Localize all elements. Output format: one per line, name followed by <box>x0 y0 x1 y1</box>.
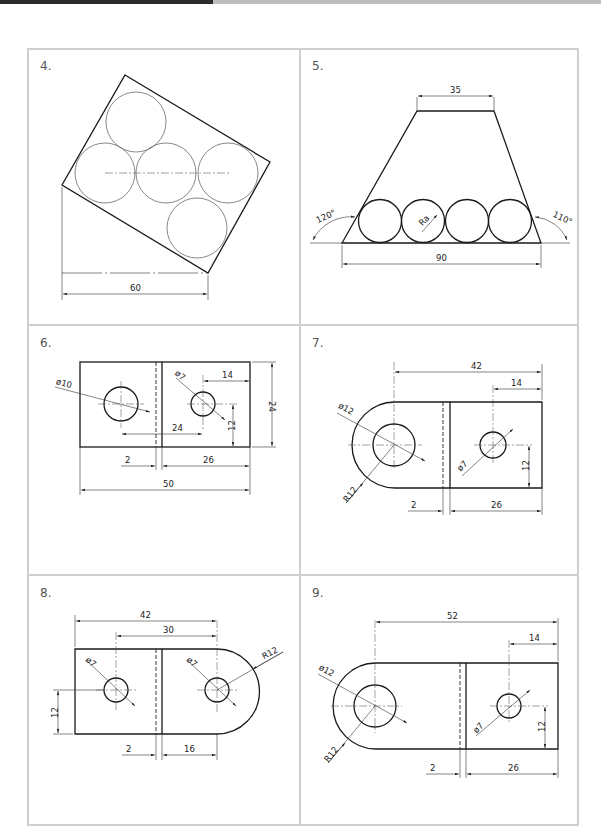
dim-d7a: ø7 <box>84 655 99 670</box>
dim-2: 2 <box>411 500 416 510</box>
dim-12: 12 <box>521 460 531 471</box>
dim-14: 14 <box>222 370 233 380</box>
dim-12: 12 <box>227 420 237 431</box>
panel-7: 7. ø12 R12 ø7 42 14 12 2 26 <box>312 336 542 515</box>
dim-r12: R12 <box>322 745 340 764</box>
dim-d7: ø7 <box>173 368 188 382</box>
panel-label: 9. <box>312 586 323 600</box>
dim-120: 120° <box>314 207 337 225</box>
dim-r12: R12 <box>341 485 359 504</box>
dim-2: 2 <box>125 455 130 465</box>
dim-d12: ø12 <box>317 662 336 678</box>
grid-frame <box>28 49 578 825</box>
dim-16: 16 <box>184 744 195 754</box>
panel-4: 4. 60 <box>40 59 270 300</box>
panel-6: 6. ø10 ø7 14 24 12 24 2 26 50 <box>40 336 277 495</box>
dim-14: 14 <box>511 378 522 388</box>
dim-42: 42 <box>471 361 482 371</box>
panel-label: 4. <box>40 59 51 73</box>
dim-ra: Ra <box>417 213 432 228</box>
dim-26: 26 <box>508 763 519 773</box>
panel-label: 7. <box>312 336 323 350</box>
dim-42: 42 <box>140 610 151 620</box>
dim-2: 2 <box>430 763 435 773</box>
dim-d7: ø7 <box>471 720 486 735</box>
dim-24-v: 24 <box>267 401 277 412</box>
panel-label: 8. <box>40 586 51 600</box>
panel-9: 9. ø12 R12 ø7 52 14 12 2 26 <box>312 586 558 778</box>
dim-12: 12 <box>537 721 547 732</box>
dim-60: 60 <box>130 283 141 293</box>
panel-label: 6. <box>40 336 51 350</box>
dim-52: 52 <box>447 611 458 621</box>
dim-r12: R12 <box>260 645 279 662</box>
dim-50: 50 <box>163 479 174 489</box>
dim-12: 12 <box>50 707 60 718</box>
panel-5: 5. 35 Ra 120° 110° 90 <box>310 59 574 268</box>
panel-label: 5. <box>312 59 323 73</box>
dim-14: 14 <box>529 633 540 643</box>
dim-35: 35 <box>450 85 461 95</box>
dim-90: 90 <box>436 253 447 263</box>
dim-24-h: 24 <box>172 423 183 433</box>
dim-26: 26 <box>203 455 214 465</box>
dim-30: 30 <box>163 625 174 635</box>
dim-2: 2 <box>126 744 131 754</box>
drawing-sheet: 4. 60 5. 35 Ra 120° 110° 90 <box>0 0 601 835</box>
dim-d7b: ø7 <box>185 655 200 670</box>
dim-26: 26 <box>491 500 502 510</box>
panel-8: 8. ø7 ø7 R12 42 30 12 2 16 <box>40 586 283 760</box>
